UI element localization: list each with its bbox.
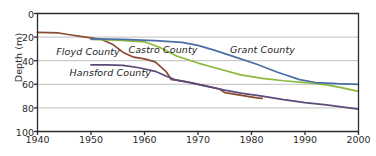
series-line-floyd-county xyxy=(38,32,263,98)
depth-over-time-chart: Depth (m) 020406080100 19401950196019701… xyxy=(0,0,376,156)
x-tick-label: 1970 xyxy=(186,134,210,145)
series-label-grant-county: Grant County xyxy=(230,44,295,55)
series-label-hansford-county: Hansford County xyxy=(70,67,151,78)
series-label-floyd-county: Floyd County xyxy=(56,46,120,57)
x-tick-label: 1950 xyxy=(79,134,103,145)
x-tick-label: 1940 xyxy=(25,134,49,145)
series-label-castro-county: Castro County xyxy=(128,44,197,55)
x-tick-label: 1980 xyxy=(239,134,263,145)
x-tick-label: 1990 xyxy=(293,134,317,145)
x-tick-label: 1960 xyxy=(132,134,156,145)
plot-area xyxy=(0,0,376,156)
x-axis: 1940195019601970198019902000 xyxy=(0,134,376,154)
x-tick-label: 2000 xyxy=(346,134,370,145)
